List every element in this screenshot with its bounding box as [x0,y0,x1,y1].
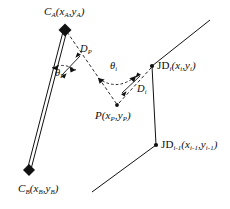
label-jdi-comma-y: ,y [182,59,190,71]
marker-jdim1-dot [154,143,158,147]
label-di-subscript: i [145,88,147,95]
geometry-diagram-canvas [0,0,230,209]
label-distance-dp: DP [80,44,92,55]
label-thetai-subscript: i [115,65,117,72]
label-distance-di: Di [137,84,147,95]
label-jdim1-comma-y: ,y [198,138,206,150]
label-point-p: P(xP,yP) [95,110,131,121]
label-cb-paren-close: ) [55,182,59,194]
label-jdim1-prefix: JD [161,138,173,150]
label-cb-comma-y: ,y [43,182,51,194]
label-ca-comma-y: ,y [69,5,77,17]
label-cb-y-subscript: B [51,188,55,195]
label-jdim1-subscript: i-1 [173,144,181,151]
road-polyline [92,20,210,192]
label-jdi-x-subscript: i [180,65,182,72]
label-dp-subscript: P [88,48,92,55]
label-thetap-subscript: P [60,72,64,79]
marker-cb-diamond [23,164,35,176]
label-angle-theta-p: θP [55,68,64,79]
label-jdi-paren-close: ) [192,59,196,71]
label-p-y-subscript: P [123,115,127,122]
label-dp-symbol: D [80,43,88,54]
label-cb-x-subscript: B [38,188,42,195]
label-p-comma-y: ,y [115,109,123,121]
marker-p-dot [115,103,119,107]
label-di-symbol: D [137,83,145,94]
label-ca-subscript: A [51,11,55,18]
label-cb-subscript: B [25,188,29,195]
label-p-paren-open: (x [102,109,111,121]
label-ca-paren-close: ) [81,5,85,17]
label-ca-x-subscript: A [64,11,68,18]
label-jdim1-y-subscript: i-1 [206,144,214,151]
label-angle-theta-i: θi [110,61,117,72]
label-jdi-paren-open: (x [171,59,180,71]
label-ca-y-subscript: A [77,11,81,18]
marker-jdi-dot [150,64,154,68]
label-p-x-subscript: P [111,115,115,122]
label-jdim1-x-subscript: i-1 [190,144,198,151]
label-point-jdi-minus-1: JDi-1(xi-1,yi-1) [161,139,217,150]
label-p-paren-close: ) [127,109,131,121]
label-p-symbol: P [95,109,102,121]
label-jdim1-paren-open: (x [181,138,190,150]
label-point-ca: CA(xA,yA) [44,6,85,17]
label-jdi-prefix: JD [157,59,169,71]
dashed-ca-to-p [67,32,116,103]
baseline-ca-cb [27,31,67,170]
label-point-cb: CB(xB,yB) [18,183,59,194]
marker-ca-diamond [59,24,72,37]
label-jdi-y-subscript: i [190,65,192,72]
label-jdim1-paren-close: ) [214,138,218,150]
label-point-jdi: JDi(xi,yi) [157,60,196,71]
